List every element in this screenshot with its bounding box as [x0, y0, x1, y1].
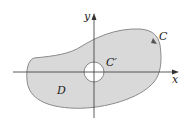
y-axis-label: y [83, 10, 91, 23]
outer-curve-label: C [159, 30, 168, 43]
region-label: D [56, 84, 66, 97]
x-axis-label: x [172, 73, 179, 86]
y-axis-arrow-icon [92, 13, 97, 20]
inner-curve-label: C′ [106, 56, 117, 69]
region-diagram: y x C C′ D [0, 0, 191, 126]
